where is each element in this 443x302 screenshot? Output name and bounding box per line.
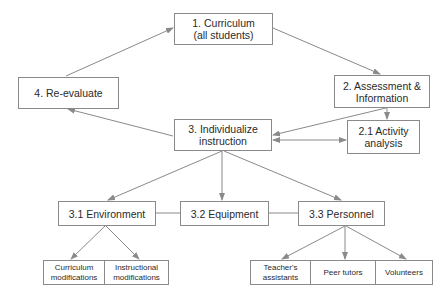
edge-environment-to-curriculum-mods xyxy=(71,226,105,259)
node-equipment: 3.2 Equipment xyxy=(180,201,269,226)
node-individualize: 3. Individualize instruction xyxy=(174,119,272,151)
edge-curriculum-to-assessment xyxy=(273,28,380,74)
node-reevaluate: 4. Re-evaluate xyxy=(18,77,119,109)
node-teachers-assistants: Teacher's assistants xyxy=(251,261,311,284)
volunteers-label: Volunteers xyxy=(385,268,423,278)
node-volunteers: Volunteers xyxy=(376,261,432,284)
node-curriculum-modifications: Curriculum modifications xyxy=(44,261,105,284)
node-reevaluate-label: 4. Re-evaluate xyxy=(34,87,102,99)
instructional-modifications-label: Instructional modifications xyxy=(113,263,160,283)
edge-personnel-to-assistants xyxy=(282,226,345,259)
curriculum-modifications-label: Curriculum modifications xyxy=(51,263,98,283)
edge-individualize-to-personnel xyxy=(224,151,341,200)
node-curriculum-label: 1. Curriculum (all students) xyxy=(192,17,254,41)
node-environment-label: 3.1 Environment xyxy=(69,208,145,220)
node-personnel-label: 3.3 Personnel xyxy=(309,208,374,220)
node-equipment-label: 3.2 Equipment xyxy=(191,208,259,220)
node-environment: 3.1 Environment xyxy=(58,201,156,226)
node-individualize-label: 3. Individualize instruction xyxy=(188,123,257,147)
peer-tutors-label: Peer tutors xyxy=(323,268,362,278)
teachers-assistants-label: Teacher's assistants xyxy=(263,263,299,283)
node-instructional-modifications: Instructional modifications xyxy=(105,261,168,284)
node-peer-tutors: Peer tutors xyxy=(311,261,376,284)
edge-reevaluate-to-curriculum xyxy=(66,28,173,76)
edge-individualize-to-environment xyxy=(108,151,222,200)
node-assessment-label: 2. Assessment & Information xyxy=(343,80,421,104)
environment-children-group: Curriculum modifications Instructional m… xyxy=(43,260,169,285)
node-curriculum: 1. Curriculum (all students) xyxy=(174,13,273,45)
node-activity-analysis-label: 2.1 Activity analysis xyxy=(358,125,408,149)
node-assessment: 2. Assessment & Information xyxy=(334,75,430,108)
edge-personnel-to-volunteers xyxy=(346,226,406,259)
node-activity-analysis: 2.1 Activity analysis xyxy=(347,120,420,154)
edge-environment-to-instructional-mods xyxy=(106,226,139,259)
flow-diagram: 1. Curriculum (all students) 4. Re-evalu… xyxy=(0,0,443,302)
edge-individualize-to-reevaluate xyxy=(68,109,173,136)
node-personnel: 3.3 Personnel xyxy=(298,201,385,226)
personnel-children-group: Teacher's assistants Peer tutors Volunte… xyxy=(250,260,433,285)
